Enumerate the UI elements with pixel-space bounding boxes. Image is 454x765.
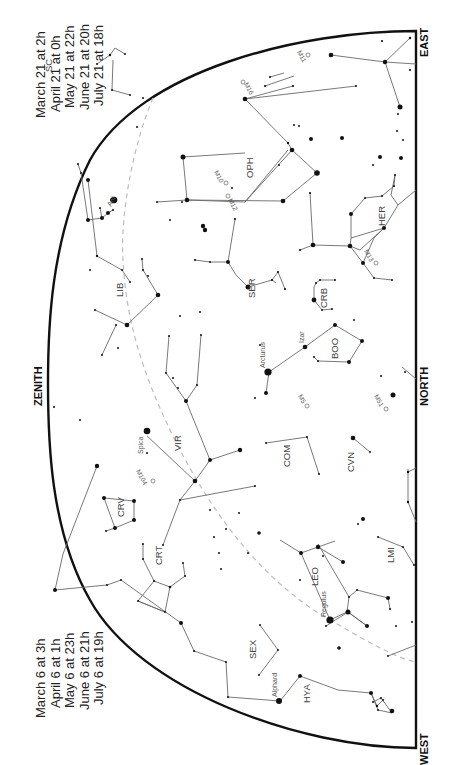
direction-east: EAST — [418, 27, 430, 57]
dso-label-m104: M104 — [135, 468, 149, 486]
star-label-antares: Ant — [106, 195, 117, 208]
time-row: July 6 at 19h — [91, 631, 106, 705]
star-label-alphard: Alphard — [271, 673, 279, 697]
direction-zenith: ZENITH — [32, 366, 44, 406]
constellation-lines — [55, 38, 416, 713]
deep-sky-objects: M11 M16 M10 M12 M13 M5 M51 M104 — [135, 49, 388, 486]
dso-label-m10: M10 — [213, 169, 225, 184]
dso-marker-m10 — [224, 181, 228, 185]
const-label-crb: CRB — [318, 288, 329, 308]
dso-marker-m51 — [384, 407, 388, 411]
time-row: July 21 at 18h — [91, 25, 106, 106]
constellation-labels: SC OPH HER SER LIB CRB BOO VIR COM CVN C… — [43, 59, 396, 703]
const-label-lib: LIB — [114, 283, 125, 297]
const-label-ser: SER — [246, 278, 257, 298]
const-label-leo: LEO — [309, 567, 320, 586]
dso-label-m51: M51 — [373, 393, 385, 408]
star-chart: March 21 at 2h April 21 at 0h May 21 at … — [0, 0, 454, 765]
dso-label-m12: M12 — [227, 197, 239, 212]
dso-label-m13: M13 — [363, 248, 375, 263]
time-row: June 6 at 21h — [77, 631, 92, 710]
const-label-boo: BOO — [329, 338, 340, 359]
ecliptic-line — [123, 98, 416, 662]
const-label-crt: CRT — [153, 545, 164, 565]
const-label-sco: SC — [43, 59, 54, 72]
time-row: April 21 at 0h — [48, 35, 63, 112]
star-label-arcturus: Arcturus — [259, 341, 266, 368]
dso-marker-m12 — [226, 194, 230, 198]
star-label-izar: Izar — [298, 331, 305, 343]
time-row: May 6 at 23h — [62, 633, 77, 708]
direction-north: NORTH — [418, 367, 430, 406]
dso-marker-m13 — [374, 261, 378, 265]
dso-label-m5: M5 — [297, 393, 308, 405]
time-row: April 6 at 1h — [48, 639, 63, 708]
time-row: June 21 at 20h — [77, 24, 92, 110]
stars — [53, 37, 415, 714]
const-label-lmi: LMI — [385, 547, 396, 563]
const-label-her: HER — [376, 206, 387, 226]
dso-marker-m104 — [151, 479, 155, 483]
dso-marker-m5 — [305, 404, 309, 408]
direction-west: WEST — [418, 733, 430, 765]
const-label-hya: HYA — [301, 684, 312, 703]
const-label-cvn: CVN — [345, 452, 356, 472]
const-label-crv: CRV — [115, 496, 126, 517]
star-label-regulus: Regulus — [320, 591, 328, 617]
const-label-vir: VIR — [172, 435, 183, 451]
const-label-oph: OPH — [244, 157, 255, 178]
star-label-spica: Spica — [137, 436, 145, 454]
time-table-bottom: March 6 at 3h April 6 at 1h May 6 at 23h… — [33, 631, 106, 718]
time-row: March 21 at 2h — [33, 31, 48, 118]
time-row: March 6 at 3h — [33, 639, 48, 719]
const-label-com: COM — [281, 445, 292, 467]
star-labels: Ant Izar Arcturus Spica Regulus Alphard — [106, 195, 328, 697]
dso-label-m11: M11 — [296, 49, 308, 63]
dso-label-m16: M16 — [243, 81, 255, 96]
time-row: May 21 at 22h — [62, 26, 77, 108]
const-label-sex: SEX — [247, 639, 258, 659]
